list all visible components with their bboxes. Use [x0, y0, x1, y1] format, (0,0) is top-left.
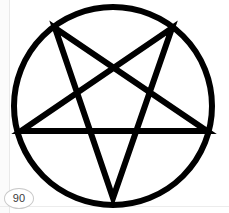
figure-number-label: 90 [13, 193, 26, 204]
outer-circle [14, 7, 212, 205]
pentagram-figure [0, 0, 229, 213]
pentagram-star [21, 28, 207, 198]
figure-number-badge: 90 [4, 188, 34, 209]
figure-page: 90 [0, 0, 229, 213]
